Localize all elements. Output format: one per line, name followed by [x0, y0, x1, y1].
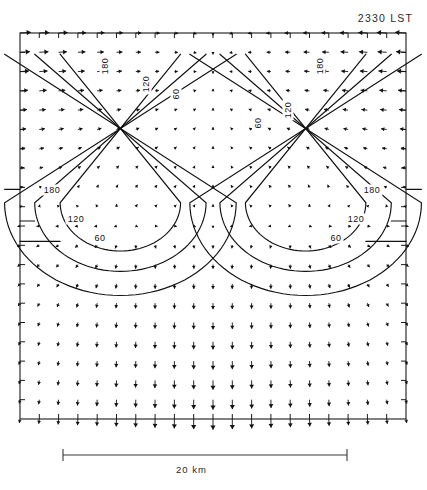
- wind-vector-head: [211, 306, 215, 309]
- wind-vector-head: [114, 344, 118, 347]
- wind-vector-head: [60, 147, 63, 151]
- wind-vector-head: [56, 323, 60, 326]
- wind-vector-head: [134, 286, 138, 289]
- wind-vector-head: [304, 50, 307, 54]
- wind-vector-head: [308, 325, 312, 328]
- wind-vector-head: [327, 304, 331, 307]
- contour-label: 180: [100, 58, 110, 75]
- wind-vector-head: [269, 365, 273, 369]
- wind-vector-head: [367, 264, 370, 267]
- wind-vector-head: [95, 403, 99, 407]
- scale-bar: [63, 449, 347, 461]
- wind-vector-head: [37, 362, 41, 365]
- wind-vector-head: [115, 204, 118, 207]
- wind-vector-head: [379, 88, 383, 92]
- wind-vector-head: [378, 49, 382, 54]
- wind-vector-head: [138, 31, 141, 35]
- wind-vector-head: [269, 305, 273, 308]
- wind-vector-head: [230, 306, 234, 309]
- wind-vector-head: [288, 266, 292, 269]
- wind-vector-head: [95, 304, 99, 307]
- scale-bar-label: 20 km: [0, 464, 427, 475]
- wind-vector-head: [250, 205, 253, 208]
- wind-vector-head: [366, 323, 370, 326]
- wind-vector-head: [211, 204, 214, 207]
- wind-vector-head: [172, 424, 177, 428]
- wind-vector-head: [192, 166, 195, 169]
- wind-vector-head: [340, 30, 344, 35]
- wind-vector-head: [119, 50, 122, 54]
- wind-vector-head: [378, 69, 382, 74]
- wind-vector-head: [79, 127, 82, 131]
- wind-vector-head: [230, 425, 235, 429]
- wind-vector-head: [95, 422, 99, 426]
- wind-vector-head: [135, 204, 138, 207]
- wind-vector-head: [327, 383, 331, 386]
- wind-vector-head: [76, 363, 80, 366]
- wind-vector-head: [173, 286, 177, 289]
- wind-vector-head: [230, 89, 233, 92]
- wind-vector-head: [366, 402, 370, 405]
- wind-vector-head: [172, 325, 176, 328]
- wind-vector-head: [173, 205, 176, 208]
- wind-vector-head: [76, 422, 80, 425]
- wind-vector-head: [114, 403, 118, 407]
- wind-vector-head: [154, 205, 157, 208]
- wind-vector-head: [138, 50, 141, 54]
- wind-vector-head: [153, 365, 157, 369]
- wind-vector-head: [288, 384, 292, 388]
- wind-vector-head: [135, 224, 138, 227]
- wind-vector-head: [114, 364, 118, 367]
- wind-vector-head: [76, 383, 80, 386]
- contour-label: 120: [141, 76, 151, 93]
- wind-vector-head: [360, 69, 364, 74]
- wind-vector-head: [269, 325, 273, 328]
- wind-vector-head: [230, 70, 233, 73]
- wind-vector-head: [230, 365, 235, 369]
- wind-vector-head: [64, 30, 68, 35]
- wind-vector-head: [399, 108, 403, 112]
- wind-vector-head: [288, 345, 292, 348]
- wind-vector-head: [211, 266, 215, 269]
- wind-vector-head: [346, 383, 350, 386]
- wind-vector-head: [267, 70, 270, 74]
- wind-vector-head: [366, 421, 370, 424]
- wind-vector-head: [95, 285, 99, 288]
- contour-label: 180: [44, 185, 61, 195]
- wind-vector-head: [154, 166, 157, 169]
- wind-vector-head: [267, 50, 270, 54]
- wind-vector-head: [230, 385, 235, 389]
- wind-vector-head: [173, 166, 176, 169]
- wind-vector-head: [193, 109, 196, 112]
- wind-vector-head: [56, 402, 60, 405]
- wind-vector-head: [97, 166, 100, 169]
- wind-vector-head: [211, 89, 214, 91]
- wind-vector-head: [211, 166, 214, 169]
- wind-vector-head: [308, 265, 312, 268]
- wind-vector-head: [134, 364, 138, 368]
- wind-vector-head: [172, 405, 177, 409]
- wind-vector-head: [289, 246, 292, 249]
- figure-container: 2330 LST 1801206018012060180120601801206…: [0, 0, 427, 490]
- wind-vector-head: [192, 205, 195, 208]
- wind-vector-head: [62, 69, 66, 74]
- wind-vector-head: [342, 89, 346, 93]
- wind-vector-head: [119, 31, 122, 35]
- wind-vector-head: [133, 384, 137, 388]
- wind-vector-head: [172, 385, 177, 389]
- wind-vector-head: [366, 343, 370, 346]
- wind-vector-head: [288, 404, 293, 408]
- wind-vector-head: [134, 246, 137, 249]
- wind-vector-head: [211, 108, 214, 111]
- wind-vector-head: [95, 363, 99, 366]
- wind-vector-head: [37, 342, 40, 345]
- wind-vector-head: [327, 363, 331, 366]
- contour-line: [220, 54, 391, 271]
- wind-vector-head: [82, 50, 86, 55]
- wind-vector-head: [194, 70, 197, 73]
- wind-vector-head: [230, 109, 233, 112]
- wind-vector-head: [95, 344, 99, 347]
- wind-vector-head: [322, 50, 326, 54]
- wind-vector-head: [266, 31, 269, 35]
- wind-vector-head: [327, 344, 331, 347]
